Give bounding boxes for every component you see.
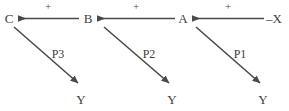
node-label-y-middle: Y bbox=[165, 93, 179, 106]
pathway-diagram: C B A –X + + + P3 P2 P1 Y Y Y bbox=[0, 0, 289, 111]
node-label-a: A bbox=[176, 12, 190, 25]
edge-label-p2: P2 bbox=[140, 48, 158, 60]
edge-sign-a-to-b: + bbox=[130, 1, 142, 12]
edge-sign-x-to-a: + bbox=[222, 1, 234, 12]
edge-label-p3: P3 bbox=[49, 48, 67, 60]
node-label-x: –X bbox=[263, 12, 285, 25]
node-label-y-right: Y bbox=[256, 93, 270, 106]
node-label-y-left: Y bbox=[74, 93, 88, 106]
edge-sign-b-to-c: + bbox=[42, 1, 54, 12]
edge-label-p1: P1 bbox=[231, 48, 249, 60]
edge-b-to-y-p2 bbox=[104, 27, 169, 83]
edge-c-to-y-p3 bbox=[14, 27, 78, 83]
edge-a-to-y-p1 bbox=[196, 27, 260, 83]
node-label-c: C bbox=[2, 12, 16, 25]
node-label-b: B bbox=[81, 12, 95, 25]
